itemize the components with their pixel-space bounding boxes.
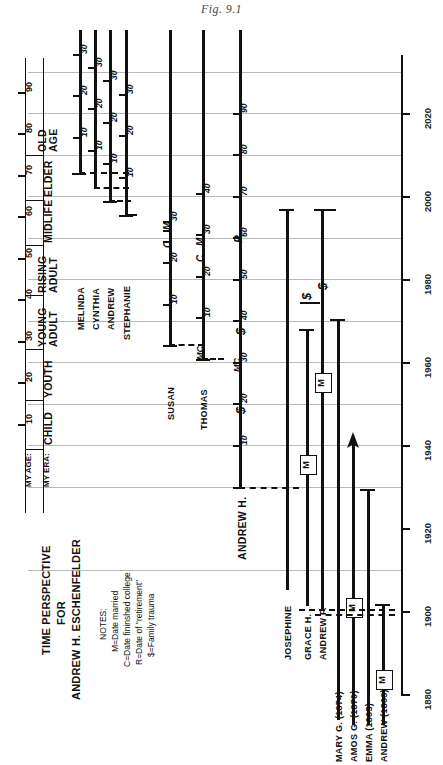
- lifeline-andrew-h[interactable]: [239, 30, 242, 487]
- lifeline-label-emma: EMMA (1865): [364, 703, 374, 762]
- stephanie-tick-20: [119, 135, 126, 137]
- stephanie-birth-connector: [125, 214, 137, 216]
- melinda-tick-30: [73, 54, 80, 56]
- susan-age-20: 20: [169, 253, 179, 262]
- gridline-1980: [28, 238, 401, 239]
- andrewc-tick-30: [103, 80, 110, 82]
- era-text-young-adult-2: ADULT: [47, 311, 59, 347]
- lifeline-emma[interactable]: [367, 490, 370, 725]
- stephanie-age-20: 20: [125, 126, 135, 135]
- lifeline-label-cynthia: CYNTHIA: [91, 288, 101, 330]
- andrewh-tick-50: [233, 279, 240, 281]
- era-text-elder: ELDER: [42, 160, 54, 197]
- cynthia-tick-30: [88, 67, 95, 69]
- era-sep-youth-young: [26, 400, 44, 401]
- thomas-tick-40: [196, 193, 203, 195]
- thomas-birth-connector: [202, 358, 224, 360]
- lifeline-josephine[interactable]: [286, 210, 289, 590]
- age-label-70: 70: [24, 165, 34, 175]
- gridline-2020: [28, 72, 401, 73]
- thomas-tick-30: [196, 234, 203, 236]
- andrewf-event-m: M: [315, 373, 332, 393]
- stephanie-tick-10: [119, 177, 126, 179]
- andrewh-age-50: 50: [239, 270, 249, 279]
- gridline-1950: [28, 362, 401, 363]
- lifeline-label-mary-g: MARY G. (1874): [334, 691, 344, 762]
- notes-item-1: M=Date married: [110, 591, 120, 652]
- melinda-age-10: 10: [79, 128, 89, 137]
- year-tick-1940: [401, 445, 410, 447]
- andrewc-tick-10: [103, 163, 110, 165]
- emma-top-cap: [360, 489, 375, 491]
- melinda-tick-20: [73, 95, 80, 97]
- age-tick-90: [18, 92, 26, 94]
- stephanie-age-10: 10: [125, 168, 135, 177]
- gridline-1920: [28, 487, 401, 488]
- grace-top-cap: [299, 329, 314, 331]
- age-tick-20: [18, 382, 26, 384]
- year-label-1920: 1920: [422, 523, 433, 544]
- era-text-old-age-2: AGE: [47, 129, 59, 152]
- andrewh-tick-40: [233, 320, 240, 322]
- melinda-age-30: 30: [79, 45, 89, 54]
- andrewf-event-trauma: $: [315, 283, 330, 290]
- andrewh-birth-connector: [239, 487, 299, 489]
- age-tick-50: [18, 258, 26, 260]
- lifeline-label-andrew-1863: ANDREW (1863): [379, 689, 389, 762]
- cynthia-tick-20: [88, 108, 95, 110]
- lifeline-label-amos-g: AMOS G. (1870): [349, 690, 359, 762]
- amos-arrow-icon: [345, 432, 361, 460]
- year-label-1980: 1980: [422, 274, 433, 295]
- era-label-rising-adult-2: ADULT: [47, 257, 59, 293]
- year-axis-spine: [401, 55, 403, 695]
- thomas-age-10: 10: [202, 308, 212, 317]
- title-line-1: TIME PERSPECTIVE: [40, 545, 52, 655]
- age-tick-80: [18, 133, 26, 135]
- year-label-1900: 1900: [422, 606, 433, 627]
- year-tick-1900: [401, 611, 410, 613]
- susan-event-c: C: [162, 241, 173, 248]
- andrewc-age-20: 20: [109, 113, 119, 122]
- andrewh-age-90: 90: [239, 104, 249, 113]
- lifeline-label-josephine: JOSEPHINE: [283, 606, 293, 660]
- stephanie-tick-30: [119, 94, 126, 96]
- notes-heading: NOTES:: [98, 608, 108, 640]
- lifeline-stephanie[interactable]: [125, 30, 128, 216]
- cynthia-age-20: 20: [94, 99, 104, 108]
- lifeline-mary-g[interactable]: [337, 320, 340, 720]
- lifeline-amos-g[interactable]: [352, 440, 355, 725]
- age-label-30: 30: [24, 331, 34, 341]
- thomas-tick-10: [196, 317, 203, 319]
- andrewh-tick-10: [233, 445, 240, 447]
- andrewh-tick-70: [233, 196, 240, 198]
- year-tick-1960: [401, 362, 410, 364]
- era-sep-rising-mid: [26, 295, 44, 296]
- year-tick-2000: [401, 196, 410, 198]
- year-tick-1880: [401, 694, 410, 696]
- title-line-3: ANDREW H. ESCHENFELDER: [70, 539, 82, 700]
- year-label-1960: 1960: [422, 357, 433, 378]
- andrewc-age-10: 10: [109, 154, 119, 163]
- thomas-age-20: 20: [202, 267, 212, 276]
- josephine-top-cap: [279, 209, 294, 211]
- andrewh-event-mc: MC: [232, 358, 242, 372]
- susan-tick-20: [163, 262, 170, 264]
- era-text-midlife: MIDLIFE: [42, 200, 54, 243]
- year-label-1940: 1940: [422, 440, 433, 461]
- cynthia-tick-10: [88, 150, 95, 152]
- era-label-child: CHILD: [42, 412, 54, 445]
- andrew1863-event-m: M: [376, 670, 393, 690]
- andrewh-age-20: 20: [239, 394, 249, 403]
- lifeline-label-susan: SUSAN: [166, 387, 176, 420]
- melinda-age-20: 20: [79, 86, 89, 95]
- lifeline-andrew-f[interactable]: [321, 210, 324, 610]
- era-label-midlife: MIDLIFE: [42, 200, 54, 243]
- grace-event-trauma: $: [299, 293, 314, 300]
- lifeline-label-grace-h: GRACE H.: [303, 614, 313, 660]
- gridline-1970: [28, 279, 401, 280]
- andrew1863-top-cap: [375, 604, 390, 606]
- age-tick-30: [18, 341, 26, 343]
- era-text-youth: YOUTH: [42, 360, 54, 398]
- age-label-40: 40: [24, 289, 34, 299]
- year-label-2000: 2000: [422, 191, 433, 212]
